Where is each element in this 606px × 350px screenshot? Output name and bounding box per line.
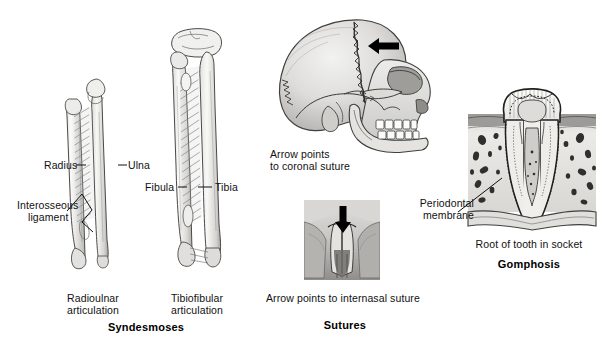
coronal-suture-arrow-icon (368, 36, 400, 56)
caption-radioulnar-line2: articulation (67, 304, 119, 316)
caption-tibiofibular-line1: Tibiofibular (171, 292, 223, 304)
panel-syndesmoses: Radius Ulna Interosseous ligament Fibula… (0, 0, 270, 350)
label-radius: Radius (44, 160, 77, 172)
label-fibula: Fibula (145, 182, 174, 194)
caption-tibiofibular-articulation: Tibiofibular articulation (152, 292, 242, 316)
note-coronal-suture: Arrow points to coronal suture (270, 148, 350, 172)
label-periodontal-membrane: Periodontal membrane (410, 198, 474, 221)
skull-lateral-illustration (266, 14, 456, 159)
caption-radioulnar-line1: Radioulnar (67, 292, 119, 304)
caption-root-of-tooth: Root of tooth in socket (454, 238, 604, 250)
note-coronal-line2: to coronal suture (270, 160, 350, 172)
caption-syndesmoses: Syndesmoses (86, 321, 206, 333)
anatomy-figure: Radius Ulna Interosseous ligament Fibula… (0, 0, 606, 350)
internasal-suture-arrow-icon (333, 206, 353, 234)
caption-sutures: Sutures (290, 319, 400, 331)
label-interosseous-line2: ligament (17, 212, 69, 224)
label-interosseous-line1: Interosseous (17, 199, 78, 211)
label-tibia: Tibia (215, 182, 238, 194)
panel-gomphosis: Periodontal membrane Root of tooth in so… (452, 0, 606, 350)
note-coronal-line1: Arrow points (270, 148, 330, 160)
label-periodontal-line2: membrane (423, 209, 474, 221)
caption-tibiofibular-line2: articulation (171, 304, 223, 316)
label-ulna: Ulna (128, 160, 150, 172)
tooth-socket-illustration (464, 88, 600, 236)
label-periodontal-line1: Periodontal (420, 197, 474, 209)
caption-gomphosis: Gomphosis (474, 258, 584, 270)
panel-sutures: Arrow points to coronal suture (262, 0, 454, 350)
caption-radioulnar-articulation: Radioulnar articulation (50, 292, 136, 316)
tibiofibular-illustration (160, 26, 232, 276)
radioulnar-illustration (58, 72, 124, 272)
label-interosseous-ligament: Interosseous ligament (17, 200, 83, 223)
note-internasal-suture: Arrow points to internasal suture (266, 292, 420, 304)
